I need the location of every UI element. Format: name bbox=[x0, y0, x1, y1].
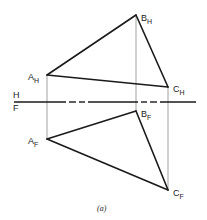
edge-bh-ch bbox=[136, 15, 168, 87]
edge-ah-ch bbox=[47, 75, 168, 87]
folding-line-label-h: H bbox=[13, 90, 20, 100]
frontal-view-triangle bbox=[47, 111, 168, 190]
edge-af-bf bbox=[47, 111, 136, 139]
label-c-h: CH bbox=[173, 84, 185, 96]
label-b-f: BF bbox=[141, 109, 151, 121]
label-c-f: CF bbox=[173, 188, 184, 200]
folding-line-label-f: F bbox=[13, 103, 19, 113]
edge-ah-bh bbox=[47, 15, 136, 75]
horizontal-view-triangle bbox=[47, 15, 168, 87]
figure-caption: (a) bbox=[97, 204, 107, 213]
label-b-h: BH bbox=[141, 13, 152, 25]
label-a-h: AH bbox=[28, 72, 39, 84]
descriptive-geometry-diagram: H F AH BH CH AF BF CF (a) bbox=[0, 0, 207, 220]
label-a-f: AF bbox=[28, 136, 38, 148]
